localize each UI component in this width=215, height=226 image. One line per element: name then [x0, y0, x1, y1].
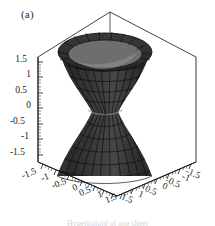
x-tick-label-1: -1	[39, 171, 50, 183]
x-tick-label-2: -0.5	[50, 176, 68, 191]
z-axis-tick-labels: 1.510.50-0.5-1-1.5	[10, 54, 31, 157]
x-tick-label-6: 1.5	[103, 191, 118, 205]
figure-caption: Hyperboloid of one sheet	[0, 219, 215, 226]
y-tick-label-0: 1.5	[120, 191, 135, 205]
z-tick-label-6: -1.5	[10, 147, 25, 157]
z-tick-label-3: 0	[26, 100, 31, 110]
z-axis	[38, 57, 43, 162]
surface-plot-3d: 1.510.50-0.5-1-1.5 -1.5-1-0.500.511.5 1.…	[0, 0, 215, 226]
hyperboloid-surface	[57, 32, 152, 184]
z-tick-label-0: 1.5	[15, 54, 27, 64]
y-tick-label-2: 0.5	[144, 183, 159, 197]
panel-label: (a)	[21, 8, 34, 20]
z-tick-label-5: -1	[21, 131, 29, 141]
x-tick-label-0: -1.5	[20, 166, 38, 181]
z-tick-label-1: 1	[26, 69, 31, 79]
figure-container: 1.510.50-0.5-1-1.5 -1.5-1-0.500.511.5 1.…	[0, 0, 215, 226]
z-tick-label-4: -0.5	[10, 116, 25, 126]
z-tick-label-2: 0.5	[15, 85, 27, 95]
